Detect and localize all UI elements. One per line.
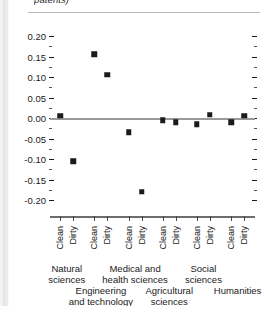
x-axis-tick xyxy=(94,216,95,221)
x-axis-category-label: Clean xyxy=(192,226,202,250)
y-axis-tick-label: 0.00 xyxy=(28,113,47,124)
x-axis-group-label: Socialsciences xyxy=(185,264,222,285)
x-axis-group-label-line: Engineering xyxy=(69,286,133,297)
x-axis-group-label-line: Natural xyxy=(48,264,85,275)
data-point xyxy=(139,189,145,195)
y-axis-major-tick xyxy=(49,77,54,78)
x-axis-tick xyxy=(73,216,74,221)
x-axis-tick xyxy=(176,216,177,221)
y-axis-major-tick xyxy=(252,139,257,140)
data-point xyxy=(105,72,111,78)
y-axis-minor-tick xyxy=(254,149,257,150)
data-point xyxy=(58,113,64,119)
x-axis-tick xyxy=(107,216,108,221)
x-axis-category-label: Dirty xyxy=(239,226,249,245)
x-axis-group-label-line: sciences xyxy=(48,275,85,286)
data-point xyxy=(194,121,200,127)
y-axis-minor-tick xyxy=(254,87,257,88)
zero-reference-line xyxy=(50,118,255,120)
x-axis-group-label: Humanities xyxy=(214,286,262,297)
x-axis-group-label-line: Medical and xyxy=(102,264,167,275)
data-point xyxy=(70,158,76,164)
x-axis-category-label: Dirty xyxy=(68,226,78,245)
y-axis-minor-tick xyxy=(49,149,52,150)
y-axis-tick-label: -0.15 xyxy=(24,174,46,185)
x-axis-tick xyxy=(210,216,211,221)
x-axis-group-label-line: sciences xyxy=(185,275,222,286)
y-axis-tick-label: -0.10 xyxy=(24,154,46,165)
data-point xyxy=(207,112,213,118)
y-axis-major-tick xyxy=(252,180,257,181)
bottom-margin xyxy=(0,306,264,316)
y-axis-minor-tick xyxy=(49,46,52,47)
y-axis-minor-tick xyxy=(254,190,257,191)
y-axis-major-tick xyxy=(252,57,257,58)
y-axis-major-tick xyxy=(49,200,54,201)
y-axis-tick-label: 0.20 xyxy=(28,31,47,42)
data-point xyxy=(126,130,132,136)
x-axis-group-label: Naturalsciences xyxy=(48,264,85,285)
x-axis-category-label: Clean xyxy=(89,226,99,250)
y-axis-major-tick xyxy=(49,159,54,160)
y-axis-tick-label: -0.05 xyxy=(24,133,46,144)
y-axis-tick-label: 0.10 xyxy=(28,72,47,83)
x-axis-category-label: Clean xyxy=(226,226,236,250)
y-axis-minor-tick xyxy=(254,169,257,170)
y-axis-major-tick xyxy=(49,180,54,181)
x-axis-group-label: Engineeringand technology xyxy=(69,286,133,307)
x-axis-tick xyxy=(129,216,130,221)
y-axis-major-tick xyxy=(49,57,54,58)
x-axis-group-label-line: Agricultural xyxy=(145,286,193,297)
y-axis-tick-label: 0.15 xyxy=(28,51,47,62)
x-axis-tick xyxy=(142,216,143,221)
y-axis-major-tick xyxy=(252,98,257,99)
y-axis-ticks-right xyxy=(249,0,257,316)
y-axis-major-tick xyxy=(49,98,54,99)
y-axis-minor-tick xyxy=(254,67,257,68)
x-axis-group-label-line: health sciences xyxy=(102,275,167,286)
y-axis-major-tick xyxy=(252,159,257,160)
scatter-plot: 0.200.150.100.050.00-0.05-0.10-0.15-0.20… xyxy=(0,0,264,316)
x-axis-group-label: Agriculturalsciences xyxy=(145,286,193,307)
x-axis-category-label: Dirty xyxy=(137,226,147,245)
y-axis-minor-tick xyxy=(254,108,257,109)
y-axis-tick-label: -0.20 xyxy=(24,195,46,206)
data-point xyxy=(160,117,166,123)
y-axis-major-tick xyxy=(252,36,257,37)
y-axis-major-tick xyxy=(49,139,54,140)
data-point xyxy=(228,119,234,125)
y-axis-minor-tick xyxy=(49,108,52,109)
y-axis-major-tick xyxy=(49,36,54,37)
x-axis-tick xyxy=(60,216,61,221)
y-axis-minor-tick xyxy=(49,67,52,68)
y-axis-labels: 0.200.150.100.050.00-0.05-0.10-0.15-0.20 xyxy=(14,0,46,316)
x-axis-tick xyxy=(244,216,245,221)
data-point xyxy=(173,119,179,125)
y-axis-minor-tick xyxy=(254,128,257,129)
y-axis-tick-label: 0.05 xyxy=(28,92,47,103)
x-axis-category-label: Clean xyxy=(55,226,65,250)
x-axis-group-label-line: Social xyxy=(185,264,222,275)
y-axis-minor-tick xyxy=(49,190,52,191)
y-axis-minor-tick xyxy=(49,169,52,170)
data-point xyxy=(92,52,98,58)
x-axis-line xyxy=(50,216,255,218)
x-axis-category-label: Dirty xyxy=(171,226,181,245)
x-axis-group-label-line: Humanities xyxy=(214,286,262,297)
y-axis-minor-tick xyxy=(49,128,52,129)
y-axis-minor-tick xyxy=(49,87,52,88)
x-axis-category-label: Dirty xyxy=(205,226,215,245)
x-axis-category-label: Dirty xyxy=(102,226,112,245)
x-axis-tick xyxy=(197,216,198,221)
y-axis-major-tick xyxy=(252,200,257,201)
data-point xyxy=(241,113,247,119)
y-axis-major-tick xyxy=(252,77,257,78)
y-axis-minor-tick xyxy=(254,46,257,47)
x-axis-category-label: Clean xyxy=(124,226,134,250)
x-axis-category-label: Clean xyxy=(158,226,168,250)
x-axis-tick xyxy=(231,216,232,221)
x-axis-group-label: Medical andhealth sciences xyxy=(102,264,167,285)
x-axis-tick xyxy=(163,216,164,221)
